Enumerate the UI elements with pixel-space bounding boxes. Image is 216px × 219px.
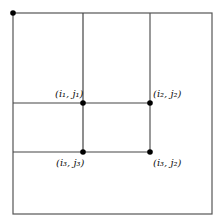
point-label-1: (i₁, j₁) xyxy=(55,89,83,99)
outer-box xyxy=(13,13,212,214)
point-dot-3 xyxy=(80,149,86,155)
origin-dot xyxy=(10,10,16,16)
point-label-2: (i₂, j₂) xyxy=(153,89,181,99)
point-dot-2 xyxy=(147,100,153,106)
grid-diagram xyxy=(0,0,216,219)
point-dot-4 xyxy=(147,149,153,155)
point-label-4: (i₃, j₂) xyxy=(153,158,181,168)
point-label-3: (i₃, j₃) xyxy=(56,158,84,168)
point-dot-1 xyxy=(80,100,86,106)
